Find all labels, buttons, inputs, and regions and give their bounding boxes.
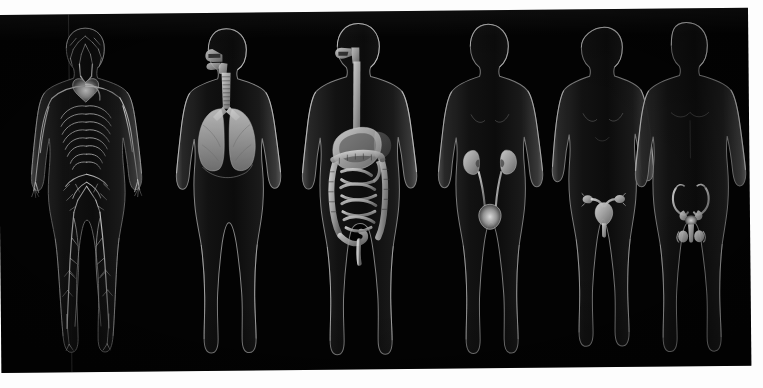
figure-urinary[interactable]: [430, 10, 551, 369]
body-silhouette-urinary: [437, 24, 545, 354]
body-silhouette-male-repro: [634, 22, 748, 352]
figure-respiratory[interactable]: [168, 12, 289, 371]
body-silhouette-circulatory: [30, 28, 143, 353]
figure-circulatory[interactable]: [20, 14, 153, 373]
illustration-canvas: [0, 0, 763, 388]
black-plate: [0, 8, 751, 373]
figure-reproductive-male[interactable]: [628, 8, 751, 367]
figure-digestive[interactable]: [296, 11, 423, 370]
